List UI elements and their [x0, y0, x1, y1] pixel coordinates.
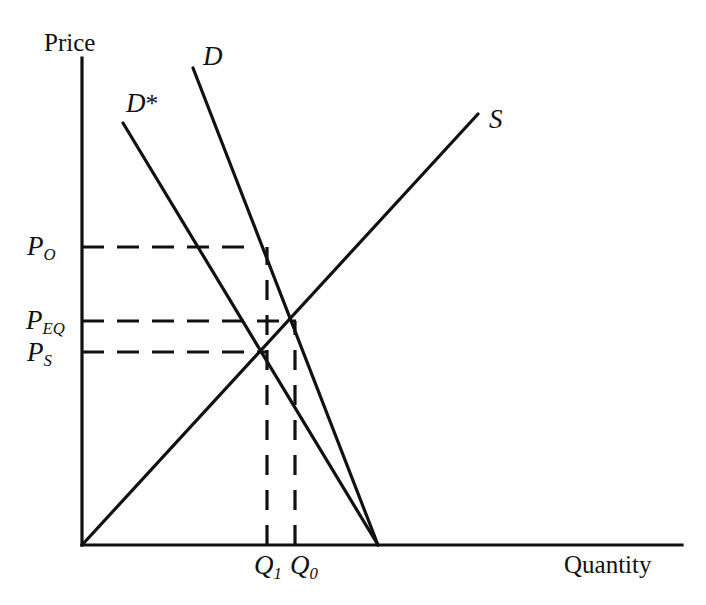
demand-star-mark: * [146, 89, 159, 118]
price-label-peq: PEQ [26, 307, 65, 334]
supply-curve-label: S [489, 106, 503, 133]
price-label-p0-sub: O [44, 245, 56, 264]
price-label-peq-sub: EQ [43, 319, 65, 338]
demand-curve [193, 68, 378, 545]
diagram-canvas [0, 0, 706, 605]
quantity-label-q1: Q1 [254, 552, 282, 579]
quantity-label-q0-sub: 0 [310, 564, 318, 583]
price-label-p0-base: P [27, 231, 44, 261]
price-label-p0: PO [27, 233, 56, 260]
quantity-label-q0-base: Q [290, 550, 310, 580]
demand-curve-label: D [203, 43, 223, 70]
demand-star-base: D [126, 88, 146, 118]
quantity-label-q1-sub: 1 [274, 564, 282, 583]
price-label-ps-sub: S [44, 351, 52, 370]
quantity-axis-label: Quantity [564, 552, 652, 577]
price-label-peq-base: P [26, 305, 43, 335]
price-axis-label: Price [44, 30, 95, 55]
demand-star-curve [123, 123, 378, 545]
demand-star-curve-label: D* [126, 90, 158, 117]
price-label-ps-base: P [27, 337, 44, 367]
quantity-label-q0: Q0 [290, 552, 318, 579]
supply-demand-figure: Price Quantity D D* S PO PEQ PS Q1 Q0 [0, 0, 706, 605]
supply-curve [82, 114, 478, 545]
quantity-label-q1-base: Q [254, 550, 274, 580]
price-label-ps: PS [27, 339, 52, 366]
